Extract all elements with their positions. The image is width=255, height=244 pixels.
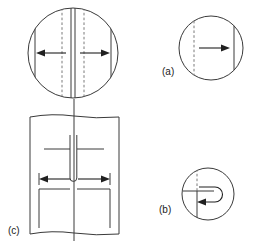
panel-a: (a) <box>162 16 243 80</box>
panel-b: (b) <box>159 168 234 220</box>
main-arrow-left <box>36 50 66 57</box>
panel-b-hook-arrow <box>197 187 223 205</box>
panel-a-arrow-right <box>199 45 230 52</box>
panel-main-circle <box>28 6 118 100</box>
panel-b-contents <box>183 169 214 219</box>
panel-a-label: (a) <box>162 66 174 77</box>
panel-c-arrow-right <box>78 176 110 183</box>
panel-c-label: (c) <box>8 225 20 236</box>
panel-c: (c) <box>8 99 119 241</box>
panel-b-circle-outline <box>182 168 234 220</box>
technical-diagram-svg: (a) (b) <box>0 0 255 244</box>
main-arrow-right <box>80 50 110 57</box>
figure-root: (a) (b) <box>0 0 255 244</box>
panel-b-label: (b) <box>159 204 171 215</box>
panel-c-arrow-left <box>39 176 70 183</box>
panel-c-u-channel <box>70 135 77 181</box>
